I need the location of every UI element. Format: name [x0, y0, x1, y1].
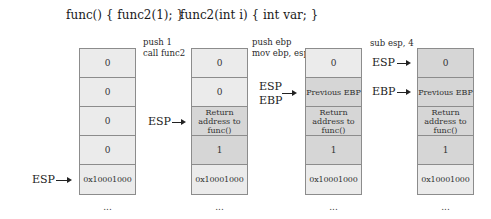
arrow-icon	[172, 122, 183, 123]
ebp-label: EBP	[372, 84, 396, 100]
stack-cell: Return address to func()	[306, 107, 361, 136]
ellipsis: ...	[305, 202, 362, 212]
instructions-stage-2: push 1 call func2	[143, 37, 185, 59]
stack-cell: 1	[192, 136, 247, 165]
stack-cell: 0	[80, 136, 135, 165]
caller-code: func() { func2(1); }	[66, 8, 184, 22]
esp-label: ESP	[148, 114, 171, 130]
stack-cell: 0	[80, 78, 135, 107]
instruction: push 1	[143, 37, 185, 48]
ellipsis: ...	[191, 202, 248, 212]
stack-cell: 1	[418, 136, 473, 165]
stack-stage-4: 0 Previous EBP Return address to func() …	[417, 48, 474, 195]
ellipsis: ...	[417, 202, 474, 212]
stack-cell: 0	[80, 49, 135, 78]
stack-cell: Return address to func()	[418, 107, 473, 136]
arrow-icon	[397, 92, 408, 93]
arrow-icon	[397, 63, 408, 64]
esp-label: ESP	[372, 55, 395, 71]
stack-cell: 1	[306, 136, 361, 165]
instruction: push ebp	[252, 37, 309, 48]
stack-cell: 0	[306, 49, 361, 78]
stack-cell: 0x10001000	[192, 165, 247, 194]
instruction: mov ebp, esp	[252, 48, 309, 59]
stack-cell: Previous EBP	[418, 78, 473, 107]
stack-cell: 0x10001000	[418, 165, 473, 194]
stack-cell: 0	[192, 78, 247, 107]
stack-cell: Return address to func()	[192, 107, 247, 136]
instructions-stage-3: push ebp mov ebp, esp	[252, 37, 309, 59]
stack-cell: 0x10001000	[80, 165, 135, 194]
esp-label: ESP	[32, 172, 55, 188]
arrow-icon	[56, 180, 69, 181]
instruction: call func2	[143, 48, 185, 59]
stack-cell: 0	[80, 107, 135, 136]
stack-cell: 0x10001000	[306, 165, 361, 194]
stack-cell: 0	[418, 49, 473, 78]
callee-code: func2(int i) { int var; }	[180, 8, 318, 22]
stack-cell: 0	[192, 49, 247, 78]
ellipsis: ...	[79, 202, 136, 212]
arrow-icon	[282, 93, 294, 94]
ebp-label: EBP	[259, 93, 283, 109]
stack-stage-2: 0 0 Return address to func() 1 0x1000100…	[191, 48, 248, 195]
instruction: sub esp, 4	[370, 38, 414, 49]
stack-cell: Previous EBP	[306, 78, 361, 107]
stack-stage-3: 0 Previous EBP Return address to func() …	[305, 48, 362, 195]
instructions-stage-4: sub esp, 4	[370, 38, 414, 49]
stack-stage-1: 0 0 0 0 0x10001000	[79, 48, 136, 195]
